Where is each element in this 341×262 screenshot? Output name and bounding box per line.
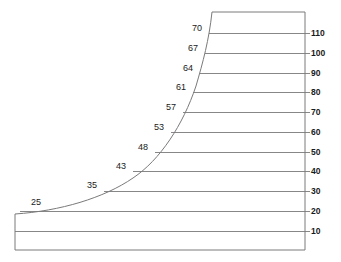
depth-scale-label-60: 60 [311, 128, 320, 137]
depth-scale-label-10: 10 [311, 227, 320, 236]
depth-scale-label-80: 80 [311, 88, 320, 97]
face-value-label-67: 67 [188, 44, 198, 53]
contour-lines [15, 33, 305, 231]
cross-section-figure: 70676461575348433525 1101009080706050403… [0, 0, 341, 262]
depth-scale-label-20: 20 [311, 207, 320, 216]
depth-scale-label-100: 100 [311, 49, 325, 58]
face-value-label-43: 43 [116, 162, 126, 171]
depth-scale-label-50: 50 [311, 148, 320, 157]
face-value-label-57: 57 [166, 103, 176, 112]
curved-upstream-face [15, 12, 212, 214]
depth-scale-label-30: 30 [311, 187, 320, 196]
face-value-label-61: 61 [176, 83, 186, 92]
figure-canvas [0, 0, 341, 262]
face-value-label-64: 64 [183, 64, 193, 73]
depth-scale-label-40: 40 [311, 167, 320, 176]
face-value-label-70: 70 [192, 24, 202, 33]
face-value-label-35: 35 [87, 181, 97, 190]
scale-tick-marks [305, 33, 310, 231]
depth-scale-label-90: 90 [311, 69, 320, 78]
face-value-label-25: 25 [31, 198, 41, 207]
depth-scale-label-70: 70 [311, 108, 320, 117]
face-value-label-48: 48 [138, 143, 148, 152]
face-value-label-53: 53 [154, 123, 164, 132]
depth-scale-label-110: 110 [311, 29, 325, 38]
